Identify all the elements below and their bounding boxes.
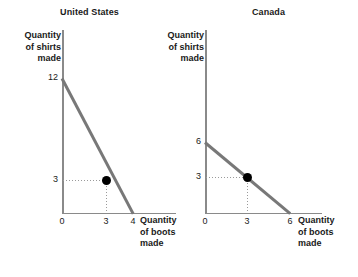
y-axis-label-us: Quantity of shirts made (0, 30, 61, 65)
y-tick-canada-3: 3 (181, 171, 201, 181)
x-tick-canada-3: 3 (240, 216, 254, 226)
y-tick-us-3: 3 (38, 174, 58, 184)
x-axis-label-canada: Quantity of boots made (298, 215, 358, 250)
production-point-canada[interactable] (243, 173, 252, 182)
y-axis-label-canada: Quantity of shirts made (138, 30, 204, 65)
chart-title-united-states: United States (0, 7, 179, 17)
guide-horizontal-us (63, 180, 106, 181)
x-axis-us (62, 213, 176, 215)
x-axis-label-line-3: made (298, 238, 358, 250)
y-axis-label-line-1: Quantity (138, 30, 204, 42)
y-tick-us-12: 12 (38, 72, 58, 82)
y-axis-canada (205, 30, 207, 214)
y-axis-label-line-2: of shirts (0, 42, 61, 54)
x-axis-canada (205, 213, 322, 215)
production-point-us[interactable] (102, 176, 111, 185)
x-tick-us-3: 3 (99, 216, 113, 226)
x-axis-label-line-2: of boots (298, 227, 358, 239)
y-axis-us (62, 30, 64, 214)
guide-horizontal-canada (206, 177, 247, 178)
guide-vertical-us (106, 180, 107, 213)
x-tick-canada-6: 6 (283, 216, 297, 226)
x-tick-us-4: 4 (126, 216, 140, 226)
y-axis-label-line-3: made (138, 53, 204, 65)
x-axis-label-line-1: Quantity (298, 215, 358, 227)
y-axis-label-line-2: of shirts (138, 42, 204, 54)
y-tick-canada-6: 6 (181, 136, 201, 146)
y-axis-label-line-3: made (0, 53, 61, 65)
chart-panel-canada: Canada Quantity of shirts made 6 3 0 3 6… (179, 0, 358, 277)
guide-vertical-canada (247, 177, 248, 213)
origin-label-canada: 0 (198, 216, 212, 226)
chart-title-canada: Canada (179, 7, 358, 17)
y-axis-label-line-1: Quantity (0, 30, 61, 42)
ppf-line-us (61, 77, 135, 213)
origin-label-us: 0 (55, 216, 69, 226)
